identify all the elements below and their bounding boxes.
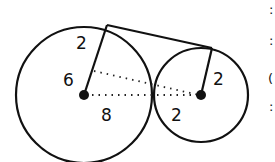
diagram-canvas: 2 6 8 2 2 : : ( : [0,0,275,162]
dotted-line-upper [94,71,199,95]
small-center-point [196,90,206,100]
edge-fragment-2: : [269,33,273,48]
small-radius-line [201,48,212,95]
common-tangent-segment [107,25,212,48]
label-center-distance-small: 2 [171,105,182,125]
large-radius-line [84,25,107,95]
edge-fragment-3: ( [268,71,273,86]
label-large-radius-lower: 6 [63,70,74,90]
label-large-radius-upper: 2 [76,33,87,53]
label-center-distance-large: 8 [101,105,112,125]
edge-fragment-1: : [269,2,273,17]
large-center-point [79,90,89,100]
label-small-radius: 2 [213,69,224,89]
edge-fragment-4: : [269,99,273,114]
